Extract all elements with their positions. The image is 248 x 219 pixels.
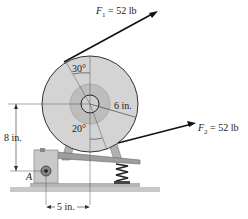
spring bbox=[116, 164, 128, 183]
angle-30: 30° bbox=[72, 64, 86, 74]
point-A: A bbox=[26, 172, 32, 182]
label-f2: F2 = 52 lb bbox=[198, 123, 239, 136]
label-f1: F1 = 52 lb bbox=[96, 6, 137, 19]
ground bbox=[10, 187, 160, 192]
force-arrow-f1 bbox=[64, 13, 154, 62]
angle-20: 20° bbox=[72, 124, 86, 134]
dim-horizontal: 5 in. bbox=[55, 202, 77, 212]
dim-radius: 6 in. bbox=[114, 101, 132, 111]
dim-height: 8 in. bbox=[4, 133, 22, 143]
